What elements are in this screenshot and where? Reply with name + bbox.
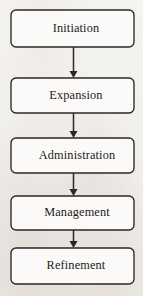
node-label: Expansion — [49, 88, 102, 102]
arrowhead-icon — [70, 131, 78, 138]
node-label: Management — [44, 205, 110, 219]
node-label: Initiation — [53, 21, 100, 35]
node-label: Refinement — [47, 258, 106, 272]
edge-administration-to-management — [70, 173, 78, 196]
flowchart-diagram: Initiation Expansion Administration Mana… — [0, 0, 143, 296]
flow-node-initiation[interactable]: Initiation — [11, 10, 134, 47]
flow-node-administration[interactable]: Administration — [11, 138, 134, 173]
edge-management-to-refinement — [70, 230, 78, 248]
edge-expansion-to-administration — [70, 113, 78, 138]
edge-initiation-to-expansion — [70, 47, 78, 78]
flowchart-page: Initiation Expansion Administration Mana… — [0, 0, 143, 296]
flow-node-management[interactable]: Management — [11, 196, 134, 230]
flow-node-refinement[interactable]: Refinement — [11, 248, 134, 284]
arrowhead-icon — [70, 189, 78, 196]
arrowhead-icon — [70, 241, 78, 248]
flow-node-expansion[interactable]: Expansion — [11, 78, 134, 113]
node-label: Administration — [39, 148, 116, 162]
arrowhead-icon — [70, 71, 78, 78]
